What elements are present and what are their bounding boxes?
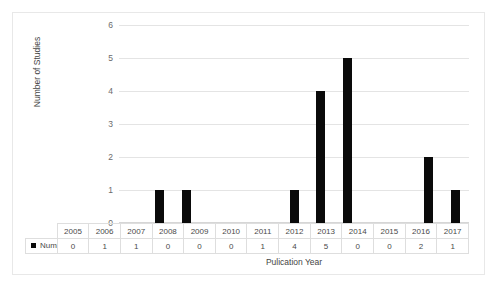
y-tick-1: 1 (108, 186, 113, 195)
chart-frame: Number of Studies 6 5 4 3 2 1 0 2005 200… (12, 12, 485, 275)
legend-blank-cell (26, 224, 58, 239)
y-axis-tick-labels: 6 5 4 3 2 1 0 (91, 25, 113, 223)
table-header-cell: 2012 (279, 224, 311, 239)
y-tick-2: 2 (108, 153, 113, 162)
y-tick-3: 3 (108, 120, 113, 129)
legend-label: Number of Studies (40, 242, 57, 251)
gridline-3 (119, 124, 469, 125)
table-value-cell: 1 (247, 239, 279, 254)
bar-2006 (155, 190, 164, 223)
table-value-cell: 0 (57, 239, 89, 254)
gridline-4 (119, 91, 469, 92)
table-value-cell: 0 (215, 239, 247, 254)
table-value-row: Number of Studies 0 1 1 0 0 0 1 4 5 0 0 … (26, 239, 469, 254)
bar-2013 (343, 58, 352, 223)
y-tick-5: 5 (108, 54, 113, 63)
bar-2011 (290, 190, 299, 223)
y-tick-6: 6 (108, 21, 113, 30)
table-header-cell: 2017 (437, 224, 469, 239)
table-value-cell: 1 (120, 239, 152, 254)
table-value-cell: 1 (437, 239, 469, 254)
table-header-cell: 2010 (215, 224, 247, 239)
bar-2012 (316, 91, 325, 223)
table-header-cell: 2013 (310, 224, 342, 239)
bar-2016 (424, 157, 433, 223)
table-header-cell: 2014 (342, 224, 374, 239)
plot-area (119, 25, 469, 223)
table-value-cell: 0 (374, 239, 406, 254)
table-header-cell: 2006 (89, 224, 121, 239)
legend-swatch-icon (31, 243, 36, 248)
y-axis-title: Number of Studies (32, 12, 42, 132)
table-header-cell: 2011 (247, 224, 279, 239)
table-header-row: 2005 2006 2007 2008 2009 2010 2011 2012 … (26, 224, 469, 239)
table-value-cell: 0 (152, 239, 184, 254)
table-header-cell: 2005 (57, 224, 89, 239)
gridline-2 (119, 157, 469, 158)
table-header-cell: 2007 (120, 224, 152, 239)
table-value-cell: 1 (89, 239, 121, 254)
gridline-6 (119, 25, 469, 26)
table-value-cell: 0 (342, 239, 374, 254)
table-header-cell: 2009 (184, 224, 216, 239)
y-tick-4: 4 (108, 87, 113, 96)
gridline-5 (119, 58, 469, 59)
table-value-cell: 5 (310, 239, 342, 254)
table-value-cell: 4 (279, 239, 311, 254)
table-header-cell: 2016 (405, 224, 437, 239)
legend-entry: Number of Studies (26, 239, 58, 254)
data-table: 2005 2006 2007 2008 2009 2010 2011 2012 … (25, 223, 469, 254)
bar-2007 (182, 190, 191, 223)
table-value-cell: 2 (405, 239, 437, 254)
table-header-cell: 2015 (374, 224, 406, 239)
table-value-cell: 0 (184, 239, 216, 254)
x-axis-title: Pulication Year (119, 257, 469, 267)
bar-2017 (451, 190, 460, 223)
table-header-cell: 2008 (152, 224, 184, 239)
